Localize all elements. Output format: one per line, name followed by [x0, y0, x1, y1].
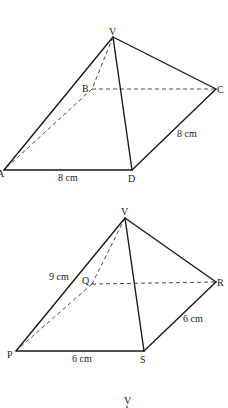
edge-QR-hidden — [92, 282, 216, 284]
edge-VA — [4, 37, 113, 170]
vertex-label-V3: V — [124, 395, 132, 406]
vertex-label-Q: Q — [82, 275, 90, 286]
partial-figure: V — [124, 395, 132, 408]
vertex-label-D: D — [128, 173, 135, 184]
vertex-label-R: R — [217, 277, 224, 288]
vertex-label-V2: V — [121, 206, 129, 217]
edge-VS — [125, 218, 144, 351]
measure-VP: 9 cm — [49, 271, 69, 282]
edge-BA-hidden — [6, 89, 92, 168]
edge-VP — [16, 218, 125, 351]
edge-VB-hidden — [92, 37, 113, 89]
edge-VQ-hidden — [92, 218, 125, 284]
edge-VD — [113, 37, 132, 170]
measure-DC: 8 cm — [177, 128, 197, 139]
vertex-label-S: S — [140, 354, 146, 365]
edge-VC — [113, 37, 216, 89]
measure-SR: 6 cm — [183, 313, 203, 324]
measure-PS: 6 cm — [72, 353, 92, 364]
vertex-label-V1: V — [109, 26, 117, 37]
vertex-label-P: P — [7, 349, 13, 360]
measure-AD: 8 cm — [58, 172, 78, 183]
vertex-label-B: B — [82, 83, 89, 94]
edge-SR — [144, 282, 216, 351]
edge-DC — [132, 89, 216, 170]
vertex-label-C: C — [217, 84, 224, 95]
edge-VR — [125, 218, 216, 282]
edge-QP-hidden — [18, 284, 92, 349]
pyramid-vpqrs: V Q R P S 9 cm 6 cm 6 cm — [7, 206, 224, 365]
pyramid-vabcd: V B C A D 8 cm 8 cm — [0, 26, 224, 184]
diagram-canvas: V B C A D 8 cm 8 cm V Q R P S 9 cm 6 cm … — [0, 0, 228, 408]
